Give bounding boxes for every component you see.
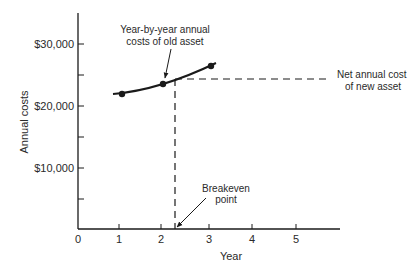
x-axis-label: Year (220, 250, 243, 262)
new-asset-annotation-line2: of new asset (345, 81, 401, 92)
x-ticks (119, 224, 296, 229)
data-point-year-1 (119, 91, 125, 97)
y-axis-label: Annual costs (18, 90, 30, 153)
y-ticks (78, 44, 84, 199)
new-asset-annotation-line1: Net annual cost (337, 69, 407, 80)
breakeven-annotation-line2: point (215, 194, 237, 205)
breakeven-annotation-line1: Breakeven (202, 183, 250, 194)
y-tick-30000: $30,000 (34, 38, 74, 50)
x-tick-2: 2 (158, 233, 164, 245)
breakeven-arrow-icon (177, 198, 206, 227)
data-point-year-3 (208, 63, 214, 69)
old-asset-annotation-line1: Year-by-year annual (120, 24, 210, 35)
old-asset-annotation-line2: costs of old asset (126, 36, 203, 47)
x-tick-3: 3 (206, 233, 212, 245)
x-tick-0: 0 (75, 233, 81, 245)
x-tick-1: 1 (116, 233, 122, 245)
x-tick-5: 5 (293, 233, 299, 245)
x-tick-4: 4 (249, 233, 255, 245)
y-tick-20000: $20,000 (34, 100, 74, 112)
breakeven-chart: $30,000 $20,000 $10,000 Annual costs 0 1… (0, 0, 413, 268)
data-point-year-2 (160, 81, 166, 87)
y-tick-10000: $10,000 (34, 162, 74, 174)
old-asset-arrow-icon (165, 49, 171, 78)
